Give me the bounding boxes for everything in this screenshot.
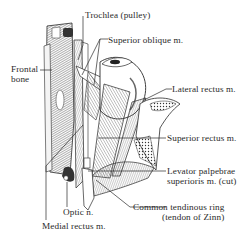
label-lateral-rectus: Lateral rectus m.: [172, 84, 236, 94]
label-frontal-bone-line1: Frontal: [11, 64, 38, 74]
apex-shape: [82, 158, 94, 210]
label-levator-line2: superioris m. (cut): [167, 176, 237, 186]
optic-nerve-shape: [62, 167, 74, 182]
label-superior-oblique: Superior oblique m.: [108, 35, 183, 45]
anatomy-diagram: Trochlea (pulley) Superior oblique m. Fr…: [0, 0, 245, 240]
label-levator-line1: Levator palpebrae: [167, 166, 235, 176]
frontal-bone-shape: [44, 23, 74, 175]
label-superior-rectus: Superior rectus m.: [167, 133, 236, 143]
label-common-ring-line1: Common tendinous ring: [133, 202, 224, 212]
label-frontal-bone-line2: bone: [11, 74, 29, 84]
label-trochlea: Trochlea (pulley): [85, 10, 150, 20]
label-medial-rectus: Medial rectus m.: [42, 221, 106, 231]
label-optic-nerve: Optic n.: [63, 207, 93, 217]
label-common-ring-line2: (tendon of Zinn): [162, 212, 224, 222]
